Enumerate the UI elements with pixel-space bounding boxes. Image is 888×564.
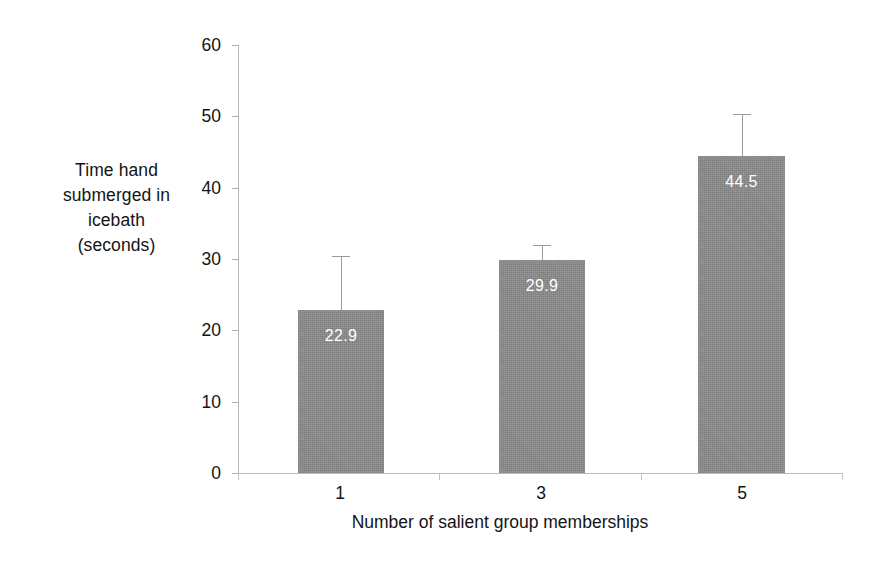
bar-value-label-1: 22.9 (299, 327, 383, 345)
y-tick-label-60: 60 (202, 35, 221, 56)
x-tick-label-3: 3 (536, 483, 546, 504)
x-axis-title: Number of salient group memberships (0, 512, 888, 533)
bar-category-5: 44.5 (698, 156, 785, 473)
x-axis-title-text: Number of salient group memberships (352, 512, 649, 533)
plot-area: 0 10 20 30 40 50 60 1 3 5 22.9 (238, 45, 843, 473)
y-axis-title-line-1: Time hand (14, 158, 219, 183)
y-axis-title-line-4: (seconds) (14, 233, 219, 258)
y-axis-title-line-3: icebath (14, 208, 219, 233)
x-tick-label-5: 5 (737, 483, 747, 504)
error-bar-cap-1 (332, 256, 350, 257)
error-bar-stem-3 (542, 245, 543, 260)
y-tick-label-0: 0 (211, 463, 221, 484)
x-axis-line (238, 473, 843, 474)
error-bar-stem-1 (341, 256, 342, 310)
bar-chart-figure: Time hand submerged in icebath (seconds)… (0, 0, 888, 564)
y-tick-label-10: 10 (202, 391, 221, 412)
y-tick-50: 50 (232, 116, 239, 117)
error-bar-cap-3 (533, 245, 551, 246)
x-tick-boundary-2 (641, 473, 642, 480)
bar-value-label-5: 44.5 (699, 173, 784, 191)
y-tick-label-20: 20 (202, 320, 221, 341)
error-bar-stem-5 (742, 114, 743, 155)
bar-category-1: 22.9 (298, 310, 384, 473)
bar-value-label-3: 29.9 (500, 277, 584, 295)
y-tick-30: 30 (232, 259, 239, 260)
x-tick-label-1: 1 (335, 483, 345, 504)
y-tick-label-50: 50 (202, 106, 221, 127)
x-tick-boundary-1 (439, 473, 440, 480)
y-tick-10: 10 (232, 402, 239, 403)
y-tick-label-30: 30 (202, 249, 221, 270)
error-bar-cap-5 (733, 114, 751, 115)
y-tick-20: 20 (232, 330, 239, 331)
y-tick-60: 60 (232, 45, 239, 46)
y-axis-title: Time hand submerged in icebath (seconds) (14, 158, 219, 258)
x-axis-end-tick (842, 473, 843, 480)
y-axis-title-line-2: submerged in (14, 183, 219, 208)
x-tick-boundary-0 (238, 473, 239, 480)
bar-category-3: 29.9 (499, 260, 585, 473)
y-tick-40: 40 (232, 188, 239, 189)
y-tick-label-40: 40 (202, 177, 221, 198)
